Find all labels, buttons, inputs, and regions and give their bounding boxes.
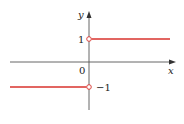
open-circle-lower (87, 85, 92, 90)
y-tick-label-minus-1: −1 (96, 82, 111, 93)
y-axis-label: y (77, 9, 84, 20)
x-axis-arrow-icon (169, 60, 176, 65)
x-axis-label: x (168, 65, 174, 76)
open-circle-upper (87, 37, 92, 42)
sign-function-graph: y 1 0 x −1 (0, 0, 184, 124)
origin-label: 0 (79, 65, 85, 76)
y-tick-label-1: 1 (78, 34, 84, 45)
y-axis-arrow-icon (87, 11, 92, 18)
plot-area: y 1 0 x −1 (0, 0, 184, 124)
